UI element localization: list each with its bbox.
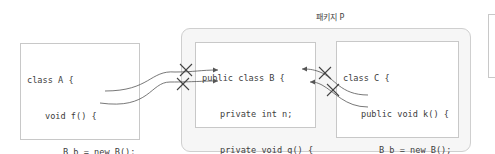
blocked-x-icon xyxy=(177,78,189,90)
blocked-x-icon xyxy=(319,67,331,79)
blocked-x-icon xyxy=(327,84,339,96)
access-arrows xyxy=(0,0,495,154)
arrow-a-bg-to-b-g xyxy=(100,81,218,104)
arrow-a-bn-to-b-n xyxy=(105,70,218,91)
blocked-x-icon xyxy=(180,64,192,76)
